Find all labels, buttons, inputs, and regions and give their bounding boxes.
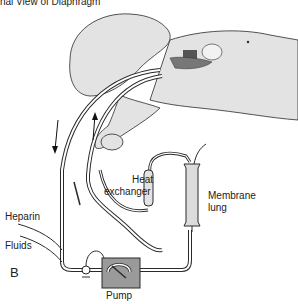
- circuit-loop: [18, 144, 206, 270]
- membrane-lung-label-line2: lung: [208, 202, 227, 213]
- heat-exchanger-label-line2: exchanger: [104, 186, 151, 197]
- infant-illustration: [70, 14, 298, 150]
- bladder-reservoir: [82, 251, 104, 277]
- cannula-tubing: [52, 70, 162, 262]
- pump-label: Pump: [106, 290, 132, 301]
- membrane-lung-label-line1: Membrane: [208, 190, 256, 201]
- ecmo-circuit-diagram: [0, 0, 298, 304]
- heat-exchanger-label-line1: Heat: [132, 174, 153, 185]
- panel-letter: B: [10, 265, 19, 280]
- heparin-label: Heparin: [5, 211, 40, 222]
- roller-pump: [102, 258, 140, 288]
- fluids-label: Fluids: [5, 240, 32, 251]
- membrane-lung: [184, 164, 200, 232]
